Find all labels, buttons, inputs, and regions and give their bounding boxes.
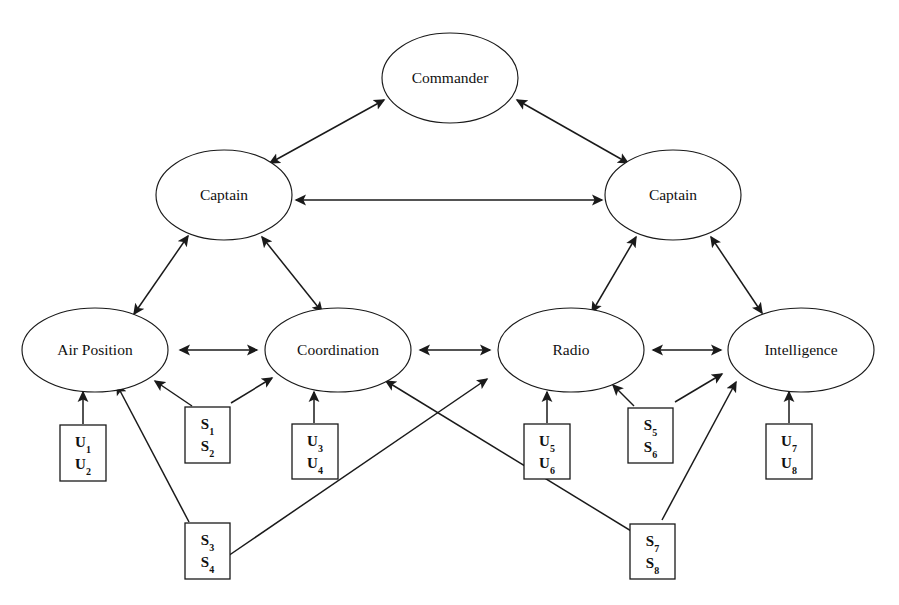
node-label-commander: Commander (412, 69, 489, 86)
nodes-layer: CommanderCaptainCaptainAir PositionCoord… (22, 33, 874, 392)
node-air_position[interactable]: Air Position (22, 308, 168, 392)
node-intelligence[interactable]: Intelligence (728, 308, 874, 392)
box-box_s1_s2[interactable]: S1S2 (185, 407, 230, 463)
boxes-layer: U1U2S1S2U3U4U5U6S5S6U7U8S3S4S7S8 (60, 407, 812, 579)
edge-box_s3_s4-to-air_position (117, 385, 189, 522)
node-radio[interactable]: Radio (498, 308, 644, 392)
node-label-captain_right: Captain (649, 186, 697, 203)
edge-commander-to-captain_right (517, 100, 628, 163)
node-label-captain_left: Captain (200, 186, 248, 203)
edge-coordination-to-captain_left (262, 237, 322, 312)
edge-box_s5_s6-to-intelligence (675, 374, 722, 402)
edge-captain_left-to-commander (270, 100, 384, 163)
box-box_u3_u4[interactable]: U3U4 (292, 424, 338, 479)
edge-box_s5_s6-to-radio (613, 385, 634, 406)
node-coordination[interactable]: Coordination (265, 308, 411, 392)
node-label-radio: Radio (552, 341, 589, 358)
node-captain_right[interactable]: Captain (605, 150, 741, 240)
edge-box_s1_s2-to-air_position (155, 381, 192, 406)
box-box_u5_u6[interactable]: U5U6 (524, 424, 570, 479)
edge-intelligence-to-captain_right (711, 237, 762, 313)
node-captain_left[interactable]: Captain (156, 150, 292, 240)
box-box_s5_s6[interactable]: S5S6 (628, 408, 673, 463)
box-box_s7_s8[interactable]: S7S8 (630, 524, 675, 579)
diagram-svg: CommanderCaptainCaptainAir PositionCoord… (0, 0, 899, 605)
edge-air_position-to-captain_left (134, 236, 188, 314)
box-box_s3_s4[interactable]: S3S4 (185, 523, 230, 579)
box-box_u7_u8[interactable]: U7U8 (766, 424, 812, 479)
node-label-coordination: Coordination (297, 341, 379, 358)
diagram-canvas: CommanderCaptainCaptainAir PositionCoord… (0, 0, 899, 605)
node-commander[interactable]: Commander (382, 33, 518, 123)
node-label-air_position: Air Position (57, 341, 133, 358)
edge-box_s3_s4-to-radio (228, 379, 487, 556)
edge-radio-to-captain_right (592, 237, 636, 312)
box-box_u1_u2[interactable]: U1U2 (60, 425, 106, 481)
edge-box_s1_s2-to-coordination (231, 378, 272, 403)
node-label-intelligence: Intelligence (764, 341, 837, 358)
